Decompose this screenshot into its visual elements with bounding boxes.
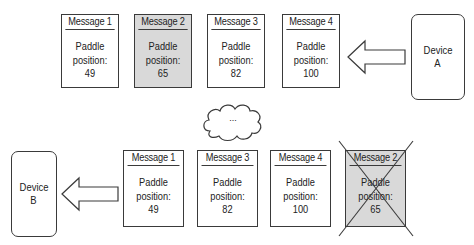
paddle-label: Paddle [138,40,187,54]
position-label: position: [138,54,187,68]
top-message-2: Message 2 Paddle position: 65 [134,14,192,88]
top-message-4: Message 4 Paddle position: 100 [282,14,340,88]
position-label: position: [202,190,254,204]
paddle-label: Paddle [128,176,180,190]
position-value: 100 [286,67,335,81]
cross-out-icon [338,140,414,237]
device-label: Device [20,181,49,194]
position-value: 82 [211,67,260,81]
left-arrow-icon [346,38,408,76]
position-value: 49 [65,67,114,81]
device-b: Device B [11,151,57,237]
left-arrow-icon [60,175,122,213]
message-title: Message 3 [211,15,260,30]
message-body: Paddle position: 100 [275,166,327,217]
position-label: position: [65,54,114,68]
device-id: A [435,57,441,70]
message-title: Message 1 [128,151,180,166]
message-title: Message 2 [138,15,187,30]
position-value: 49 [128,203,180,217]
message-body: Paddle position: 82 [202,166,254,217]
device-label: Device [424,44,453,57]
message-body: Paddle position: 49 [65,30,114,81]
paddle-label: Paddle [286,40,335,54]
top-message-3: Message 3 Paddle position: 82 [207,14,265,88]
position-value: 82 [202,203,254,217]
message-body: Paddle position: 49 [128,166,180,217]
paddle-label: Paddle [65,40,114,54]
position-label: position: [286,54,335,68]
position-value: 100 [275,203,327,217]
bottom-message-1: Message 1 Paddle position: 49 [123,150,184,227]
device-a: Device A [411,14,465,100]
paddle-label: Paddle [202,176,254,190]
device-id: B [31,194,37,207]
bottom-message-3: Message 3 Paddle position: 82 [197,150,258,227]
message-body: Paddle position: 100 [286,30,335,81]
network-label: ... [224,113,242,123]
paddle-label: Paddle [275,176,327,190]
bottom-message-4: Message 4 Paddle position: 100 [270,150,331,227]
message-title: Message 4 [275,151,327,166]
position-label: position: [211,54,260,68]
paddle-label: Paddle [211,40,260,54]
position-label: position: [128,190,180,204]
message-body: Paddle position: 82 [211,30,260,81]
top-message-1: Message 1 Paddle position: 49 [61,14,119,88]
position-label: position: [275,190,327,204]
message-title: Message 3 [202,151,254,166]
position-value: 65 [138,67,187,81]
message-body: Paddle position: 65 [138,30,187,81]
message-title: Message 4 [286,15,335,30]
message-title: Message 1 [65,15,114,30]
